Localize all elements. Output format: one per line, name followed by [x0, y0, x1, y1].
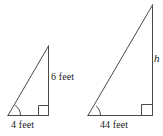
small-triangle-right-angle-marker	[39, 106, 49, 116]
small-triangle-base-label: 4 feet	[11, 120, 34, 130]
large-triangle-right-angle-marker	[142, 105, 153, 116]
large-triangle-base-label: 44 feet	[100, 120, 128, 130]
small-triangle-vertical-leg-label: 6 feet	[51, 72, 74, 82]
large-triangle-angle-arc	[96, 106, 101, 116]
large-triangle-vertical-leg-label: h	[154, 53, 160, 64]
large-triangle-hypotenuse	[88, 5, 153, 116]
small-triangle-angle-arc	[15, 105, 20, 115]
figure-canvas	[0, 0, 163, 136]
small-triangle	[8, 46, 49, 116]
geometry-figure: 6 feet 4 feet h 44 feet	[0, 0, 163, 136]
large-triangle	[88, 5, 153, 116]
